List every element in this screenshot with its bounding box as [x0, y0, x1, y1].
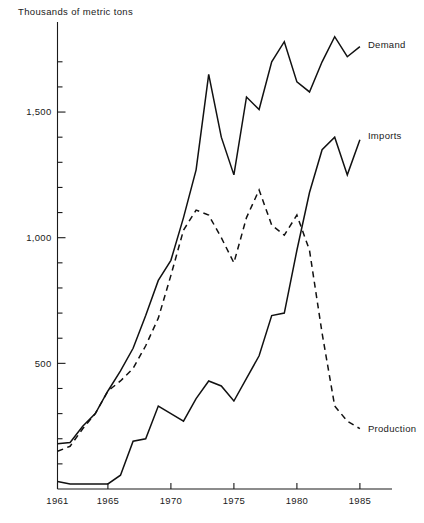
- series-label-demand: Demand: [368, 39, 406, 50]
- series-label-production: Production: [368, 423, 416, 434]
- x-tick-label: 1970: [160, 495, 182, 506]
- x-tick-label: 1985: [349, 495, 371, 506]
- y-tick-label: 500: [35, 358, 52, 369]
- series-label-imports: Imports: [368, 130, 402, 141]
- x-tick-label: 1965: [97, 495, 119, 506]
- series-annotations: DemandImportsProduction: [368, 39, 416, 434]
- x-axis-tick-labels: 196119651970197519801985: [46, 495, 371, 506]
- chart-canvas: Thousands of metric tons 5001,0001,500 1…: [0, 0, 424, 523]
- x-tick-label: 1975: [223, 495, 245, 506]
- y-axis-tick-labels: 5001,0001,500: [26, 106, 51, 368]
- x-tick-label: 1961: [46, 495, 68, 506]
- series-lines: [58, 37, 360, 484]
- y-axis: 5001,0001,500: [26, 22, 65, 489]
- y-axis-ticks: [58, 62, 66, 464]
- x-tick-label: 1980: [286, 495, 308, 506]
- series-line-demand: [58, 37, 360, 444]
- y-tick-label: 1,000: [26, 232, 51, 243]
- series-line-imports: [58, 137, 360, 484]
- x-axis: 196119651970197519801985: [46, 483, 392, 506]
- line-chart: Thousands of metric tons 5001,0001,500 1…: [0, 0, 424, 523]
- y-axis-title: Thousands of metric tons: [18, 6, 133, 17]
- series-line-production: [58, 190, 360, 451]
- y-tick-label: 1,500: [26, 106, 51, 117]
